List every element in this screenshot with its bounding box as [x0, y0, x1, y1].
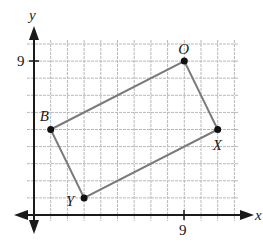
y-axis-up-arrow-icon [29, 26, 39, 40]
point-Y [81, 194, 88, 201]
x-axis-left-arrow-icon [14, 210, 28, 220]
coordinate-plane-diagram: x y 9 9 OXYB [0, 0, 263, 252]
point-label-B: B [40, 108, 49, 124]
point-label-O: O [178, 41, 189, 57]
point-X [214, 126, 221, 133]
x-axis-right-arrow-icon [240, 210, 254, 220]
y-axis-label: y [27, 7, 36, 23]
y-tick-label: 9 [17, 53, 25, 69]
x-axis-label: x [254, 207, 262, 223]
x-tick-label: 9 [179, 222, 187, 238]
y-axis-down-arrow-icon [29, 220, 39, 234]
grid-lines [27, 40, 238, 221]
point-label-Y: Y [66, 193, 76, 209]
point-B [47, 126, 54, 133]
point-label-X: X [212, 137, 223, 153]
point-O [181, 58, 188, 65]
